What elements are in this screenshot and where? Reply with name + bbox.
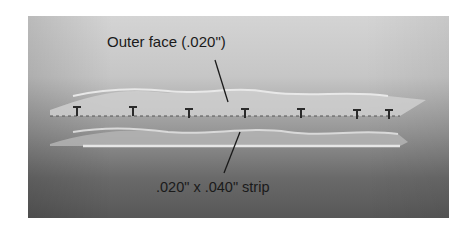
- outer-face-label: Outer face (.020"): [107, 33, 226, 50]
- photo: Outer face (.020") .020" x .040" strip: [28, 16, 449, 218]
- strip-label: .020" x .040" strip: [156, 179, 269, 195]
